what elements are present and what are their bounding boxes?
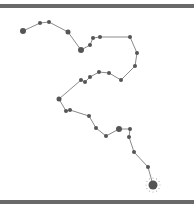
path-point (83, 80, 87, 84)
path-point (132, 150, 136, 154)
path-point (135, 51, 139, 55)
path-point (104, 134, 108, 138)
path-point (66, 30, 71, 35)
path-point (127, 135, 131, 139)
path-point (79, 78, 83, 82)
puzzle-canvas (0, 0, 194, 208)
path-point (68, 108, 72, 112)
path-point (98, 35, 102, 39)
path-point (128, 127, 132, 131)
path-point (88, 75, 92, 79)
path-point (116, 126, 122, 132)
start-point (20, 28, 26, 34)
path-point (133, 64, 137, 68)
path-point (64, 109, 68, 113)
path-point (87, 114, 91, 118)
end-point (149, 181, 158, 190)
path-point (38, 21, 42, 25)
connecting-line (23, 22, 153, 185)
path-point (91, 36, 95, 40)
path-point (94, 126, 98, 130)
path-point (88, 43, 92, 47)
path-point (107, 71, 111, 75)
path-point (119, 78, 123, 82)
path-point (128, 35, 132, 39)
path-point (78, 47, 84, 53)
path-point (57, 97, 62, 102)
path-point (146, 165, 150, 169)
dot-path-drawing (0, 0, 194, 208)
path-point (47, 20, 51, 24)
path-points (20, 20, 158, 190)
path-point (97, 70, 101, 74)
